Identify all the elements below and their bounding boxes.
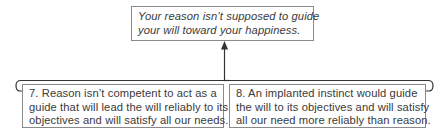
premise-box-7: 7. Reason isn’t competent to act as a gu… <box>22 84 224 128</box>
premise-7-text-line: 7. Reason isn’t competent to act as a <box>29 87 217 101</box>
premise-8-text-line: the will to its objectives and will sati… <box>236 101 419 115</box>
premise-7-text-line: objectives and will satisfy all our need… <box>29 114 217 128</box>
arrow-head-icon <box>221 41 228 50</box>
conclusion-text-line: your will toward your happiness. <box>138 24 307 38</box>
conclusion-box: Your reason isn’t supposed to guide your… <box>131 6 314 41</box>
conclusion-text-line: Your reason isn’t supposed to guide <box>138 10 307 24</box>
premise-7-text-line: guide that will lead the will reliably t… <box>29 101 217 115</box>
premise-8-text-line: all our need more reliably than reason. <box>236 114 419 128</box>
premise-8-text-line: 8. An implanted instinct would guide <box>236 87 419 101</box>
premise-box-8: 8. An implanted instinct would guide the… <box>229 84 426 128</box>
